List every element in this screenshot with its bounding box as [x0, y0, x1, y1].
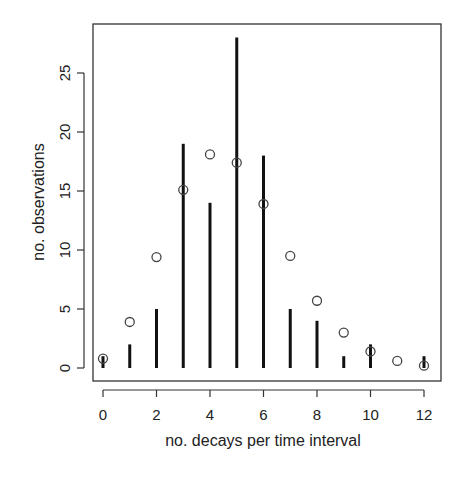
- y-tick-label: 25: [56, 65, 73, 82]
- x-tick-label: 4: [206, 406, 214, 423]
- y-tick-label: 15: [56, 183, 73, 200]
- y-tick-label: 10: [56, 242, 73, 259]
- expected-point: [313, 296, 322, 305]
- x-tick-label: 8: [313, 406, 321, 423]
- y-tick-label: 20: [56, 124, 73, 141]
- chart: 024681012 0510152025 no. decays per time…: [0, 0, 465, 483]
- plot-frame: [93, 24, 441, 381]
- expected-point: [125, 317, 134, 326]
- x-tick-label: 10: [362, 406, 379, 423]
- expected-point: [339, 328, 348, 337]
- y-axis-title: no. observations: [30, 143, 47, 260]
- x-tick-label: 12: [416, 406, 433, 423]
- x-tick-label: 2: [152, 406, 160, 423]
- expected-point: [206, 150, 215, 159]
- x-axis-title: no. decays per time interval: [165, 432, 361, 449]
- observed-lines: [103, 38, 424, 368]
- expected-point: [393, 356, 402, 365]
- x-axis: 024681012: [99, 390, 433, 423]
- y-tick-label: 5: [56, 305, 73, 313]
- expected-point: [286, 251, 295, 260]
- x-tick-label: 0: [99, 406, 107, 423]
- expected-point: [152, 253, 161, 262]
- x-tick-label: 6: [259, 406, 267, 423]
- y-axis: 0510152025: [56, 65, 84, 373]
- y-tick-label: 0: [56, 364, 73, 372]
